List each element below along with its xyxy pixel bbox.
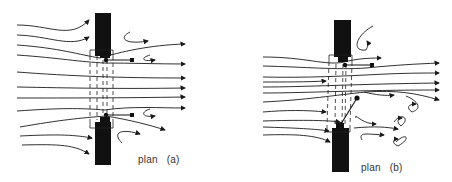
caption-word: plan [138, 154, 158, 165]
caption-label: (a) [167, 154, 180, 165]
diagram-plan-b: plan(b) [226, 0, 452, 182]
diagram-plan-a: plan(a) [0, 0, 226, 182]
caption-word: plan [361, 162, 381, 173]
gate-outline [327, 55, 352, 132]
flow-diagram-a [0, 0, 226, 182]
flow-diagram-b [226, 0, 452, 182]
caption-label: (b) [390, 162, 403, 173]
caption-plan-b: plan(b) [361, 162, 403, 173]
caption-plan-a: plan(a) [138, 154, 180, 165]
